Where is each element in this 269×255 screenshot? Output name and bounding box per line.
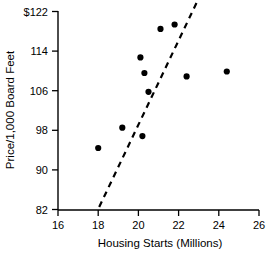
data-point <box>224 68 230 74</box>
data-point <box>119 125 125 131</box>
x-tick-label-22: 22 <box>172 219 184 231</box>
y-tick-label-106: 106 <box>30 85 48 97</box>
y-tick-label-82: 82 <box>36 204 48 216</box>
data-point <box>157 26 163 32</box>
x-tick-label-16: 16 <box>52 219 64 231</box>
data-point <box>141 70 147 76</box>
x-tick-label-18: 18 <box>92 219 104 231</box>
data-point <box>139 133 145 139</box>
y-tick-label-122: $122 <box>24 6 48 18</box>
y-tick-label-98: 98 <box>36 124 48 136</box>
scatter-chart: $122 114 106 98 90 82 16 18 20 22 24 26 … <box>0 0 269 255</box>
x-tick-label-26: 26 <box>253 219 265 231</box>
trend-line <box>99 3 197 208</box>
y-tick-label-90: 90 <box>36 164 48 176</box>
y-axis-title: Price/1,000 Board Feet <box>4 50 16 169</box>
data-point <box>172 21 178 27</box>
x-tick-label-20: 20 <box>132 219 144 231</box>
y-tick-label-114: 114 <box>30 45 48 57</box>
data-point-series <box>95 21 230 151</box>
data-point <box>137 54 143 60</box>
data-point <box>145 89 151 95</box>
x-tick-label-24: 24 <box>213 219 225 231</box>
x-axis-title: Housing Starts (Millions) <box>98 237 223 249</box>
chart-canvas: $122 114 106 98 90 82 16 18 20 22 24 26 … <box>0 0 269 255</box>
data-point <box>95 145 101 151</box>
data-point <box>184 73 190 79</box>
